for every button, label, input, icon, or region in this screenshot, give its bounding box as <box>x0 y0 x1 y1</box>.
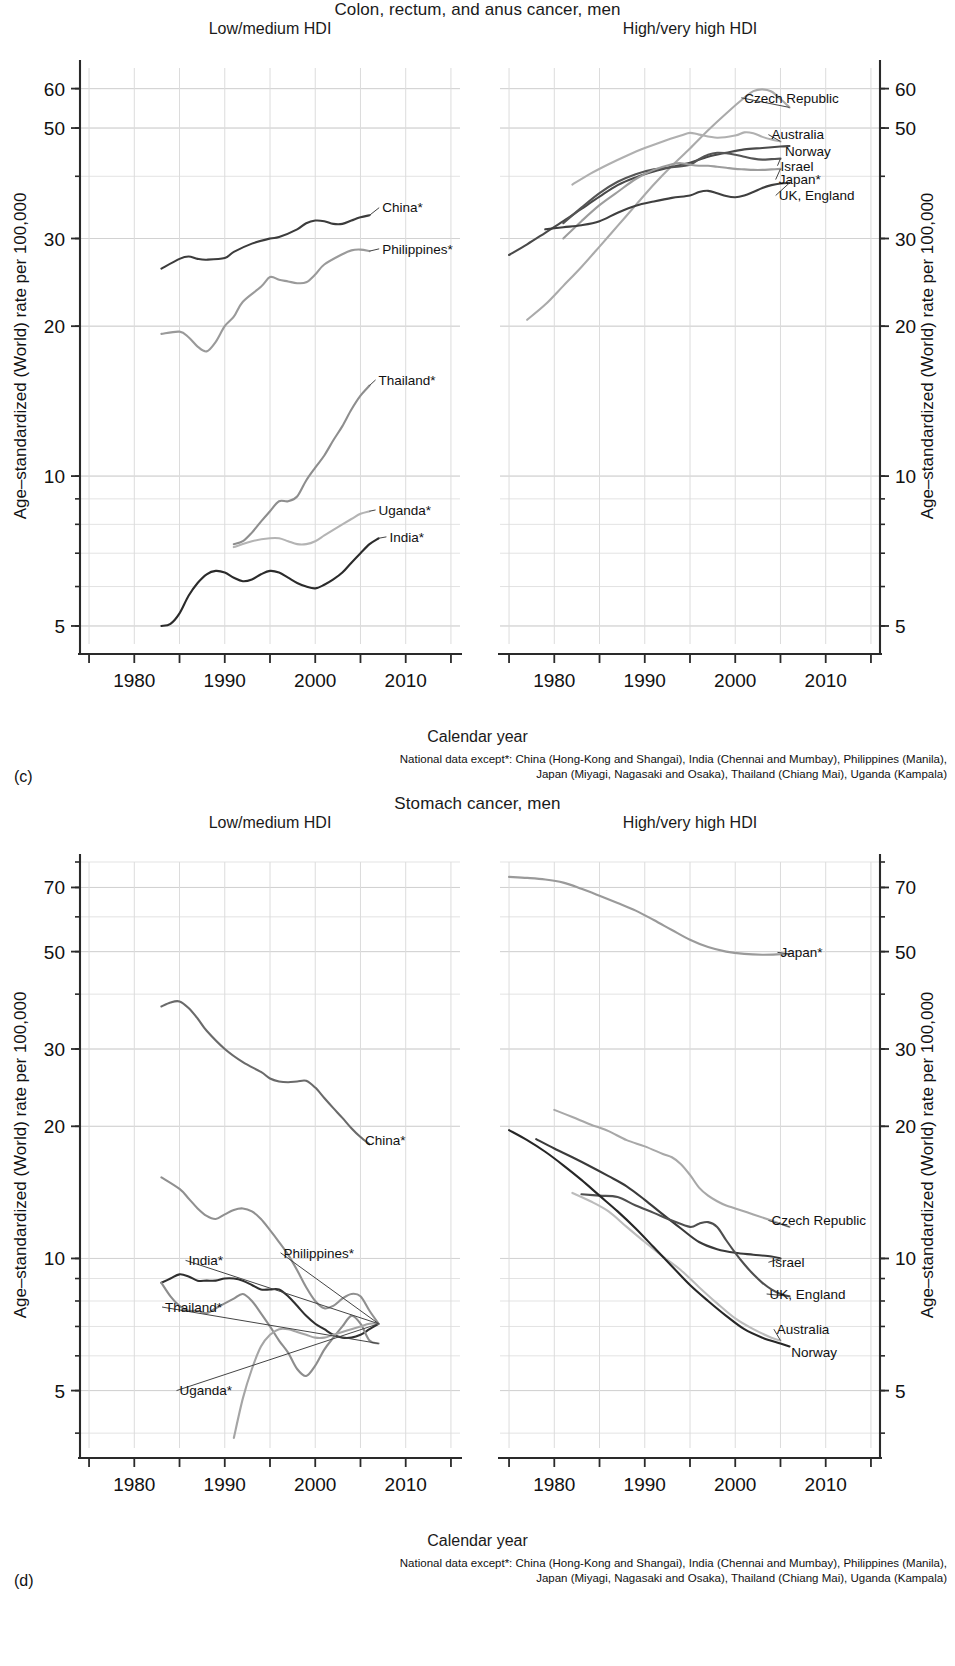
svg-text:Norway: Norway <box>785 144 831 159</box>
svg-text:Australia: Australia <box>777 1322 830 1337</box>
svg-text:5: 5 <box>54 616 65 637</box>
svg-text:30: 30 <box>895 229 916 250</box>
figure-c-footnote-line1: National data except*: China (Hong-Kong … <box>170 752 947 767</box>
figure-d-subtitle-right: High/very high HDI <box>500 814 880 832</box>
svg-text:5: 5 <box>54 1381 65 1402</box>
svg-text:1980: 1980 <box>113 1474 155 1495</box>
y-axis-title-right: Age–standardized (World) rate per 100,00… <box>918 193 937 520</box>
svg-text:2000: 2000 <box>714 670 756 691</box>
figure-c-subtitles: Low/medium HDI High/very high HDI <box>0 20 955 46</box>
svg-text:2010: 2010 <box>385 1474 427 1495</box>
figure-d-title: Stomach cancer, men <box>0 794 955 814</box>
svg-text:50: 50 <box>895 118 916 139</box>
svg-text:China*: China* <box>365 1133 406 1148</box>
figure-c-title: Colon, rectum, and anus cancer, men <box>0 0 955 20</box>
svg-text:2000: 2000 <box>294 1474 336 1495</box>
svg-text:India*: India* <box>189 1253 224 1268</box>
y-axis-title-right: Age–standardized (World) rate per 100,00… <box>918 992 937 1319</box>
svg-text:10: 10 <box>895 466 916 487</box>
svg-text:20: 20 <box>895 1116 916 1137</box>
svg-text:Japan*: Japan* <box>780 945 823 960</box>
svg-text:Czech Republic: Czech Republic <box>744 91 839 106</box>
svg-text:2010: 2010 <box>805 1474 847 1495</box>
svg-text:1990: 1990 <box>624 1474 666 1495</box>
svg-text:70: 70 <box>44 877 65 898</box>
svg-text:Israel: Israel <box>771 1255 804 1270</box>
figure-c-xaxis-title: Calendar year <box>0 728 955 746</box>
svg-text:Norway: Norway <box>791 1345 837 1360</box>
svg-text:2010: 2010 <box>805 670 847 691</box>
svg-text:60: 60 <box>895 79 916 100</box>
svg-text:China*: China* <box>382 200 423 215</box>
figure-d-footnote-line1: National data except*: China (Hong-Kong … <box>170 1556 947 1571</box>
svg-text:Israel: Israel <box>780 159 813 174</box>
svg-text:2010: 2010 <box>385 670 427 691</box>
svg-text:10: 10 <box>44 1248 65 1269</box>
svg-text:2000: 2000 <box>714 1474 756 1495</box>
figure-c-footnote-line2: Japan (Miyagi, Nagasaki and Osaka), Thai… <box>170 767 947 782</box>
figure-c-letter: (c) <box>14 768 33 786</box>
svg-text:1980: 1980 <box>533 1474 575 1495</box>
svg-text:Australia: Australia <box>771 127 824 142</box>
svg-text:Thailand*: Thailand* <box>165 1300 223 1315</box>
svg-text:20: 20 <box>44 316 65 337</box>
svg-text:1990: 1990 <box>204 670 246 691</box>
svg-text:Czech Republic: Czech Republic <box>771 1213 866 1228</box>
svg-text:20: 20 <box>44 1116 65 1137</box>
figure-d-subtitle-left: Low/medium HDI <box>80 814 460 832</box>
svg-text:60: 60 <box>44 79 65 100</box>
svg-text:Uganda*: Uganda* <box>180 1383 233 1398</box>
svg-text:10: 10 <box>895 1248 916 1269</box>
svg-text:1980: 1980 <box>113 670 155 691</box>
svg-text:5: 5 <box>895 1381 906 1402</box>
svg-text:1980: 1980 <box>533 670 575 691</box>
svg-text:1990: 1990 <box>624 670 666 691</box>
svg-text:UK, England: UK, England <box>779 188 855 203</box>
figure-d-footnote-row: (d) National data except*: China (Hong-K… <box>0 1556 955 1598</box>
svg-text:5: 5 <box>895 616 906 637</box>
figure-d-footnote-line2: Japan (Miyagi, Nagasaki and Osaka), Thai… <box>170 1571 947 1586</box>
figure-d-letter: (d) <box>14 1572 34 1590</box>
svg-text:10: 10 <box>44 466 65 487</box>
svg-text:30: 30 <box>44 229 65 250</box>
svg-text:Japan*: Japan* <box>779 172 822 187</box>
figure-c-footnote-row: (c) National data except*: China (Hong-K… <box>0 752 955 794</box>
svg-text:20: 20 <box>895 316 916 337</box>
svg-text:2000: 2000 <box>294 670 336 691</box>
svg-text:India*: India* <box>389 530 424 545</box>
figure-panel-d: Stomach cancer, men Low/medium HDI High/… <box>0 794 955 1598</box>
svg-text:50: 50 <box>44 118 65 139</box>
svg-text:UK, England: UK, England <box>770 1287 846 1302</box>
svg-text:Philippines*: Philippines* <box>382 242 453 257</box>
svg-text:50: 50 <box>44 942 65 963</box>
svg-text:50: 50 <box>895 942 916 963</box>
y-axis-title-left: Age–standardized (World) rate per 100,00… <box>11 193 30 520</box>
figure-c-subtitle-right: High/very high HDI <box>500 20 880 38</box>
svg-text:70: 70 <box>895 877 916 898</box>
svg-text:Uganda*: Uganda* <box>379 503 432 518</box>
svg-text:1990: 1990 <box>204 1474 246 1495</box>
svg-text:Philippines*: Philippines* <box>284 1246 355 1261</box>
figure-c-footnote: National data except*: China (Hong-Kong … <box>0 752 955 782</box>
y-axis-title-left: Age–standardized (World) rate per 100,00… <box>11 992 30 1319</box>
figure-d-footnote: National data except*: China (Hong-Kong … <box>0 1556 955 1586</box>
figure-c-plot-area: China*Philippines*Thailand*Uganda*India*… <box>0 46 955 726</box>
figure-d-subtitles: Low/medium HDI High/very high HDI <box>0 814 955 840</box>
figure-d-xaxis-title: Calendar year <box>0 1532 955 1550</box>
figure-panel-c: Colon, rectum, and anus cancer, men Low/… <box>0 0 955 794</box>
svg-text:30: 30 <box>44 1039 65 1060</box>
svg-text:Thailand*: Thailand* <box>379 373 437 388</box>
figure-c-subtitle-left: Low/medium HDI <box>80 20 460 38</box>
figure-d-plot-area: China*Philippines*India*Thailand*Uganda*… <box>0 840 955 1530</box>
svg-text:30: 30 <box>895 1039 916 1060</box>
